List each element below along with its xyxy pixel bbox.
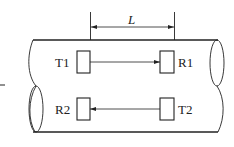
transducer-T2: T2 — [160, 98, 192, 120]
transducer-R1: R1 — [160, 51, 193, 73]
transducer-R2: R2 — [55, 98, 90, 120]
transducer-box-T2 — [160, 98, 174, 120]
transducer-label-T1: T1 — [55, 55, 69, 70]
transducer-box-T1 — [77, 51, 90, 73]
pipe-right-break — [217, 86, 223, 132]
flowmeter-diagram: L T1 R1 R2 T2 — [0, 0, 234, 147]
pipe-right-section — [210, 40, 224, 86]
transducer-label-R1: R1 — [178, 55, 193, 70]
transducer-label-T2: T2 — [178, 102, 192, 117]
pipe-left-section — [29, 86, 43, 132]
pipe — [29, 40, 224, 132]
transducer-T1: T1 — [55, 51, 90, 73]
transducer-box-R2 — [77, 98, 90, 120]
dimension-label: L — [127, 12, 135, 27]
dimension-L: L — [91, 12, 175, 40]
transducer-box-R1 — [160, 51, 174, 73]
transducer-label-R2: R2 — [55, 102, 70, 117]
